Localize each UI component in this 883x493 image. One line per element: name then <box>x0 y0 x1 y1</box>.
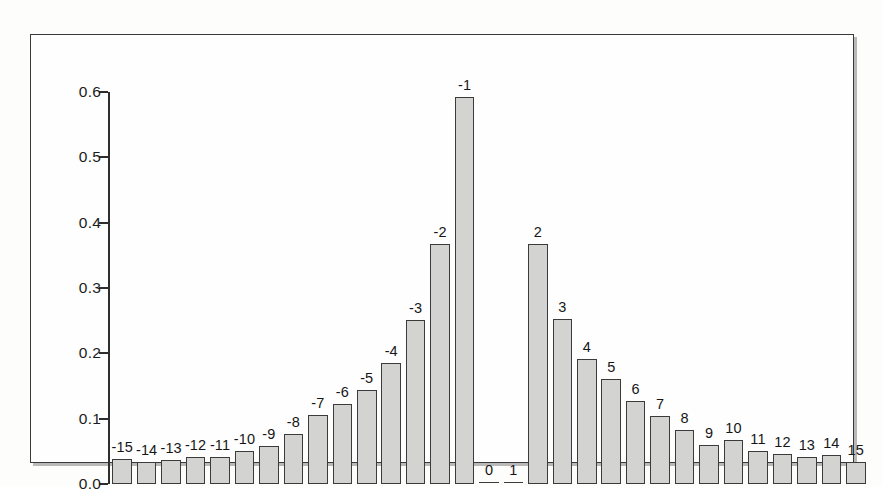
bar-column[interactable]: 4 <box>577 92 597 484</box>
bar-value-label: -7 <box>311 395 324 411</box>
bar-value-label: -12 <box>185 437 206 453</box>
bar-value-label: 12 <box>774 434 790 450</box>
bar[interactable] <box>406 320 426 484</box>
bar[interactable] <box>748 451 768 484</box>
plot-area: 0.00.10.20.30.40.50.6 -15-14-13-12-11-10… <box>108 92 868 484</box>
y-axis-tick-label: 0.3 <box>79 279 101 297</box>
bar-series: -15-14-13-12-11-10-9-8-7-6-5-4-3-2-10123… <box>110 92 868 484</box>
bar-column[interactable]: 11 <box>748 92 768 484</box>
bar-value-label: 14 <box>823 435 839 451</box>
bar-value-label: -13 <box>160 440 181 456</box>
bar-column[interactable]: 6 <box>626 92 646 484</box>
bar-column[interactable]: -2 <box>430 92 450 484</box>
bar-value-label: 1 <box>509 462 517 478</box>
bar[interactable] <box>186 457 206 484</box>
bar[interactable] <box>381 363 401 484</box>
bar-value-label: 5 <box>607 359 615 375</box>
bar-value-label: 8 <box>681 410 689 426</box>
y-axis-tick-label: 0.0 <box>79 475 101 493</box>
bar-column[interactable]: -10 <box>235 92 255 484</box>
bar-column[interactable]: 15 <box>846 92 866 484</box>
y-axis-tick-label: 0.6 <box>79 83 101 101</box>
bar[interactable] <box>284 434 304 484</box>
bar-value-label: -11 <box>210 437 230 453</box>
bar-column[interactable]: 14 <box>822 92 842 484</box>
bar[interactable] <box>430 244 450 484</box>
bar[interactable] <box>333 404 353 484</box>
bar[interactable] <box>675 430 695 484</box>
bar-value-label: -3 <box>409 300 422 316</box>
bar-value-label: -2 <box>434 224 447 240</box>
bar-value-label: 9 <box>705 425 713 441</box>
bar-column[interactable]: -14 <box>137 92 157 484</box>
plot-frame: 0.00.10.20.30.40.50.6 -15-14-13-12-11-10… <box>30 34 854 463</box>
bar[interactable] <box>112 459 132 484</box>
bar-column[interactable]: -12 <box>186 92 206 484</box>
bar[interactable] <box>528 244 548 484</box>
bar-value-label: 10 <box>725 420 741 436</box>
bar[interactable] <box>650 416 670 484</box>
bar[interactable] <box>504 482 524 484</box>
bar[interactable] <box>773 454 793 484</box>
bar[interactable] <box>846 462 866 484</box>
bar-value-label: -8 <box>287 414 300 430</box>
bar-value-label: 13 <box>799 437 815 453</box>
y-axis-tick-label: 0.2 <box>79 344 101 362</box>
bar[interactable] <box>137 462 157 484</box>
bar-value-label: 3 <box>558 299 566 315</box>
bar-value-label: -4 <box>385 343 398 359</box>
bar-column[interactable]: 7 <box>650 92 670 484</box>
bar-value-label: 7 <box>656 396 664 412</box>
bar[interactable] <box>259 446 279 484</box>
bar[interactable] <box>553 319 573 484</box>
bar-column[interactable]: -3 <box>406 92 426 484</box>
bar[interactable] <box>797 457 817 484</box>
bar-column[interactable]: 1 <box>504 92 524 484</box>
bar-column[interactable]: -13 <box>161 92 181 484</box>
bar-column[interactable]: -1 <box>455 92 475 484</box>
bar-column[interactable]: -9 <box>259 92 279 484</box>
y-axis-tick-label: 0.5 <box>79 148 101 166</box>
bar-column[interactable]: 5 <box>601 92 621 484</box>
bar-value-label: 6 <box>632 381 640 397</box>
bar[interactable] <box>357 390 377 484</box>
bar-column[interactable]: 9 <box>699 92 719 484</box>
bar-column[interactable]: 2 <box>528 92 548 484</box>
bar-column[interactable]: -5 <box>357 92 377 484</box>
bar-value-label: -5 <box>360 370 373 386</box>
bar-value-label: 15 <box>848 442 864 458</box>
bar[interactable] <box>479 482 499 484</box>
bar-column[interactable]: 13 <box>797 92 817 484</box>
bar-column[interactable]: -11 <box>210 92 230 484</box>
bar-column[interactable]: -7 <box>308 92 328 484</box>
bar[interactable] <box>724 440 744 484</box>
bar[interactable] <box>235 451 255 484</box>
bar-value-label: 4 <box>583 339 591 355</box>
y-axis-tick-label: 0.4 <box>79 214 101 232</box>
bar-value-label: 11 <box>750 431 765 447</box>
bar-column[interactable]: 10 <box>724 92 744 484</box>
bar-value-label: -10 <box>234 431 255 447</box>
bar[interactable] <box>822 455 842 484</box>
bar-value-label: 0 <box>485 462 493 478</box>
bar[interactable] <box>626 401 646 484</box>
bar-value-label: 2 <box>534 224 542 240</box>
bar[interactable] <box>308 415 328 484</box>
bar-column[interactable]: 8 <box>675 92 695 484</box>
bar-column[interactable]: -8 <box>284 92 304 484</box>
bar[interactable] <box>601 379 621 484</box>
bar[interactable] <box>577 359 597 484</box>
bar[interactable] <box>455 97 475 484</box>
bar-column[interactable]: 3 <box>553 92 573 484</box>
bar-column[interactable]: 12 <box>773 92 793 484</box>
bar-value-label: -6 <box>336 384 349 400</box>
bar-column[interactable]: -6 <box>333 92 353 484</box>
bar[interactable] <box>699 445 719 484</box>
bar[interactable] <box>161 460 181 484</box>
bar[interactable] <box>210 457 230 484</box>
bar-value-label: -14 <box>136 442 157 458</box>
bar-column[interactable]: 0 <box>479 92 499 484</box>
bar-column[interactable]: -15 <box>112 92 132 484</box>
bar-column[interactable]: -4 <box>381 92 401 484</box>
